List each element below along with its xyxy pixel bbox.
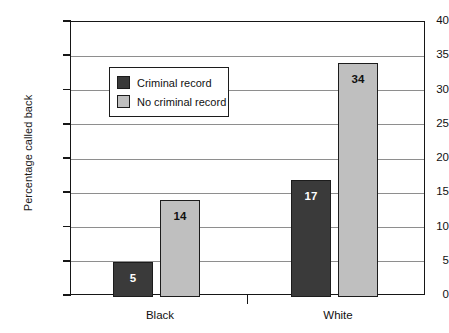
gridline [71,56,424,57]
legend-item-criminal-record: Criminal record [117,73,228,92]
bar-value-label: 17 [292,191,330,203]
legend-swatch-no-criminal-record [117,95,130,108]
legend-item-no-criminal-record: No criminal record [117,92,228,111]
legend-swatch-criminal-record [117,76,130,89]
y-axis-title: Percentage called back [22,63,34,243]
bar-value-label: 5 [114,273,152,285]
bar-white-no-criminal-record: 34 [338,63,378,297]
bar-black-no-criminal-record: 14 [160,200,200,297]
x-tick-label-white: White [323,309,352,321]
bar-black-criminal-record: 5 [113,262,153,297]
bar-value-label: 34 [339,74,377,86]
legend-label-no-criminal-record: No criminal record [137,96,226,108]
bar-white-criminal-record: 17 [291,180,331,297]
x-axis-separator-tick [247,295,249,304]
bar-chart: Percentage called back 0510152025303540 … [0,0,449,333]
x-tick-label-black: Black [146,309,174,321]
plot-area: 5141734 Criminal record No criminal reco… [70,21,425,295]
legend: Criminal record No criminal record [109,67,229,117]
bar-value-label: 14 [161,211,199,223]
legend-label-criminal-record: Criminal record [137,77,212,89]
